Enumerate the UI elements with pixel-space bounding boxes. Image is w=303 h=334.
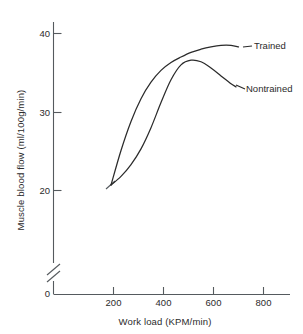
- series-label-nontrained: Nontrained: [246, 83, 292, 94]
- y-tick-label-20: 20: [39, 185, 50, 196]
- series-label-trained: Trained: [254, 40, 286, 51]
- y-tick-label-0: 0: [45, 288, 50, 299]
- curve-trained: [111, 45, 239, 185]
- x-tick-label-400: 400: [156, 297, 172, 308]
- y-tick-label-40: 40: [39, 28, 50, 39]
- x-axis-title: Work load (KPM/min): [119, 316, 212, 327]
- curve-nontrained: [111, 60, 236, 185]
- trained-label-leader: [243, 46, 252, 47]
- x-tick-label-200: 200: [106, 297, 122, 308]
- y-axis-title: Muscle blood flow (ml/100g/min): [15, 90, 26, 231]
- blood-flow-line-chart: 40 30 20 0 200 400 600 800 Work load (KP…: [0, 0, 303, 334]
- y-tick-label-30: 30: [39, 107, 50, 118]
- chart-figure: 40 30 20 0 200 400 600 800 Work load (KP…: [0, 0, 303, 334]
- x-tick-label-600: 600: [206, 297, 222, 308]
- nontrained-label-leader: [236, 85, 245, 89]
- x-tick-label-800: 800: [256, 297, 272, 308]
